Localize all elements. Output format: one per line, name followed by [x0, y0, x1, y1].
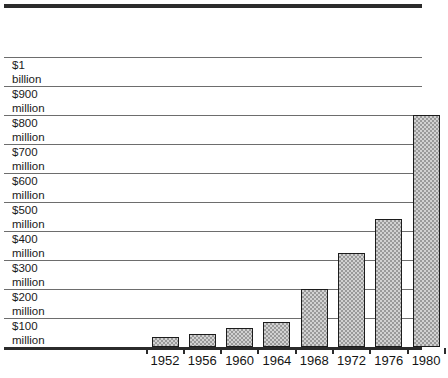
bar-1952 [152, 337, 179, 347]
bar-1972 [338, 253, 365, 347]
bar-1980 [413, 115, 440, 347]
x-axis-label-1980: 1980 [404, 353, 448, 369]
bars-group [4, 8, 422, 347]
bar-1964 [263, 322, 290, 347]
bar-1960 [226, 328, 253, 347]
bar-1968 [301, 289, 328, 347]
caption-sliver [60, 371, 420, 378]
bar-1956 [189, 334, 216, 347]
bar-1976 [375, 219, 402, 347]
plot-area: $100million$200million$300million$400mil… [4, 8, 422, 347]
chart-baseline-rule [4, 347, 422, 350]
